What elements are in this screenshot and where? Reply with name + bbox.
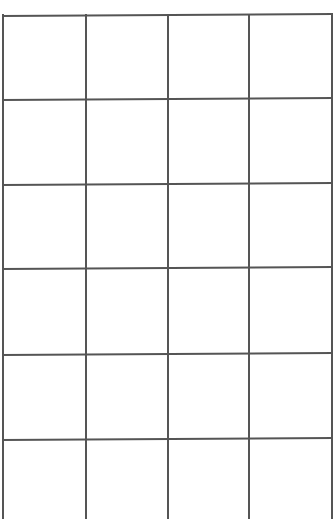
grid-vertical-line [167, 14, 169, 519]
grid-vertical-line [85, 14, 87, 519]
grid-vertical-line [331, 14, 333, 519]
blank-grid-canvas [0, 0, 336, 519]
grid-vertical-line [248, 14, 250, 519]
grid-vertical-line [2, 14, 4, 519]
